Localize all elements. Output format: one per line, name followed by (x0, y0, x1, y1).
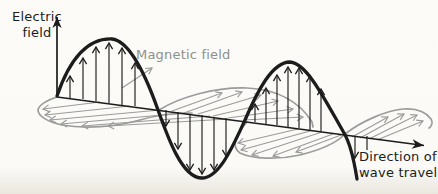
direction-label-line2: wave travel (359, 165, 438, 181)
electric-field-arrows (70, 43, 367, 174)
electric-field-label: Electric field (8, 9, 66, 40)
direction-of-travel-label: Direction of wave travel (359, 149, 438, 180)
magnetic-field-label: Magnetic field (136, 47, 246, 63)
magnetic-lobe-4-outline (345, 109, 432, 134)
em-wave-figure: Electric field Magnetic field Direction … (0, 0, 438, 194)
wave-travel-axis (57, 97, 424, 146)
direction-label-line1: Direction of (359, 149, 438, 165)
magnetic-field-arrows-lobe-4 (352, 114, 423, 140)
electric-field-label-line2: field (8, 25, 66, 41)
electric-field-label-line1: Electric (8, 9, 66, 25)
